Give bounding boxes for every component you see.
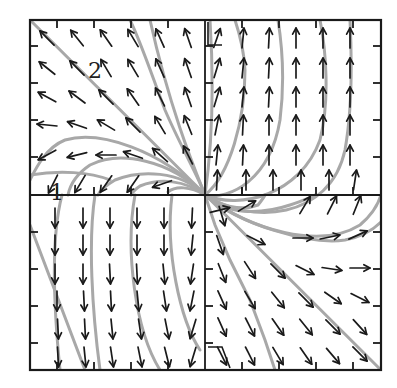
vector-arrow-icon [272,292,284,308]
vector-arrow-icon [69,91,85,103]
vector-arrow-icon [161,208,168,228]
vector-arrow-icon [101,59,111,76]
vector-arrow-icon [109,319,116,339]
vector-arrow-icon [184,59,192,78]
vector-arrow-icon [99,90,113,104]
vector-arrow-icon [189,347,196,366]
vector-arrow-icon [246,318,255,336]
trajectory-curve [131,195,160,370]
region-label-2: 2 [88,58,102,83]
vector-arrow-icon [300,348,311,364]
vector-arrow-icon [107,264,114,284]
vector-arrow-icon [353,320,366,335]
vector-arrow-icon [70,61,84,75]
vector-arrow-icon [246,347,255,365]
vector-arrow-icon [296,266,314,275]
vector-arrow-icon [128,59,138,76]
vector-arrow-icon [272,319,283,335]
vector-arrow-icon [184,29,192,48]
vector-arrow-icon [183,116,191,135]
vector-arrow-icon [37,121,57,128]
vector-arrow-icon [40,31,54,45]
vector-arrow-icon [266,115,273,135]
trajectory-curve [91,195,100,370]
vector-arrow-icon [52,235,59,255]
vector-arrow-icon [353,196,361,215]
vector-arrow-icon [300,319,312,335]
phase-portrait: 2 1 [0,0,397,388]
vector-arrow-icon [351,294,369,303]
vector-arrow-icon [347,145,354,165]
vector-arrow-icon [327,348,340,363]
vector-arrow-icon [80,264,87,284]
vector-arrow-icon [214,115,221,135]
vector-arrow-icon [55,347,62,367]
vector-arrow-icon [218,264,226,283]
vector-arrow-icon [155,116,165,133]
vector-arrow-icon [107,235,114,255]
vector-arrow-icon [188,264,195,284]
vector-arrow-icon [188,235,195,255]
vector-arrow-icon [266,58,273,78]
vector-arrow-icon [67,153,86,160]
vector-arrow-icon [240,115,247,135]
vector-arrow-icon [109,347,116,367]
vector-arrow-icon [107,208,114,228]
vector-arrow-icon [298,170,305,190]
vector-arrow-icon [325,292,341,303]
vector-arrow-icon [322,266,342,273]
vector-arrow-icon [214,145,221,165]
vector-arrow-icon [97,120,114,130]
vector-arrow-icon [80,208,87,228]
vector-arrow-icon [320,145,327,165]
vector-arrow-icon [245,291,255,308]
vector-arrow-icon [240,145,247,165]
vector-arrow-icon [293,28,300,48]
vector-arrow-icon [188,291,195,311]
vector-arrow-icon [82,319,89,339]
vector-arrow-icon [266,28,273,48]
vector-arrow-icon [293,115,300,135]
vector-arrow-icon [137,347,144,367]
vector-arrow-icon [100,30,111,46]
vector-arrow-icon [184,88,192,107]
vector-arrow-icon [71,30,83,46]
vector-arrow-icon [293,145,300,165]
vector-arrow-icon [347,87,354,107]
vector-arrow-icon [82,347,89,367]
trajectory-curve [170,195,200,350]
vector-arrow-icon [161,264,168,284]
vector-arrow-icon [126,118,140,132]
vector-arrow-icon [108,291,115,311]
region-label-1: 1 [50,180,64,205]
vector-arrow-icon [80,235,87,255]
vector-arrow-icon [218,291,227,309]
vector-arrow-icon [161,235,168,255]
vector-arrow-icon [127,89,138,105]
vector-arrow-icon [188,208,195,228]
trajectory-curve [30,172,110,180]
vector-arrow-icon [81,291,88,311]
vector-arrow-icon [38,92,56,102]
vector-arrow-icon [218,318,227,336]
vector-arrow-icon [134,235,141,255]
vector-arrow-icon [352,170,359,190]
vector-arrow-icon [162,291,169,311]
vector-arrow-icon [134,208,141,228]
vector-arrow-icon [68,121,87,129]
vector-arrow-icon [214,58,221,77]
vector-arrow-icon [164,319,171,339]
vector-arrow-icon [273,347,283,364]
vector-arrow-icon [266,87,273,107]
vector-arrow-icon [214,87,221,106]
vector-arrow-icon [134,264,141,284]
vector-arrow-icon [245,262,256,279]
vector-arrow-icon [52,264,59,284]
vector-arrow-icon [293,58,300,78]
vector-arrow-icon [270,170,277,190]
vector-arrow-icon [350,265,370,272]
trajectory-curve [205,195,275,370]
vector-arrow-icon [328,196,337,214]
vector-arrow-icon [155,88,164,106]
vector-arrow-icon [293,87,300,107]
